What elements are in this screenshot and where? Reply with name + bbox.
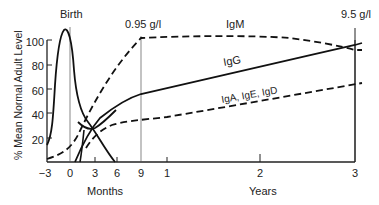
svg-text:1: 1	[164, 167, 170, 179]
y-axis-label: % Mean Normal Adult Level	[12, 30, 24, 160]
svg-text:9: 9	[138, 167, 144, 179]
igm-adult-label: 0.95 g/l	[125, 18, 161, 30]
svg-text:6: 6	[114, 167, 120, 179]
svg-text:100: 100	[26, 36, 44, 48]
iga-ige-igd-label: IgA, IgE, IgD	[220, 84, 278, 105]
early-igg-curve	[80, 130, 84, 162]
x-tick-labels-months: −3 0 3 6 9	[39, 167, 144, 179]
svg-text:60: 60	[32, 85, 44, 97]
y-tick-labels: 20 40 60 80 100	[26, 36, 44, 146]
y-ticks	[47, 40, 52, 138]
svg-text:3: 3	[352, 167, 358, 179]
svg-text:−3: −3	[39, 167, 52, 179]
igg-adult-label: 9.5 g/l	[341, 8, 371, 20]
maternal-igg-curve	[47, 29, 115, 162]
igg-label: IgG	[222, 53, 242, 68]
svg-text:20: 20	[32, 134, 44, 146]
x-ticks	[95, 154, 260, 162]
svg-text:2: 2	[257, 167, 263, 179]
svg-text:80: 80	[32, 60, 44, 72]
igm-label: IgM	[226, 18, 244, 30]
igg-curve	[75, 43, 362, 162]
x-axis-label-months: Months	[87, 185, 124, 197]
x-tick-labels-years: 1 2 3	[164, 167, 358, 179]
svg-text:0: 0	[67, 167, 73, 179]
svg-text:3: 3	[92, 167, 98, 179]
birth-label: Birth	[60, 8, 83, 20]
x-axis-label-years: Years	[249, 185, 277, 197]
chart: 20 40 60 80 100 % Mean Normal Adult Leve…	[0, 0, 379, 205]
svg-text:40: 40	[32, 109, 44, 121]
